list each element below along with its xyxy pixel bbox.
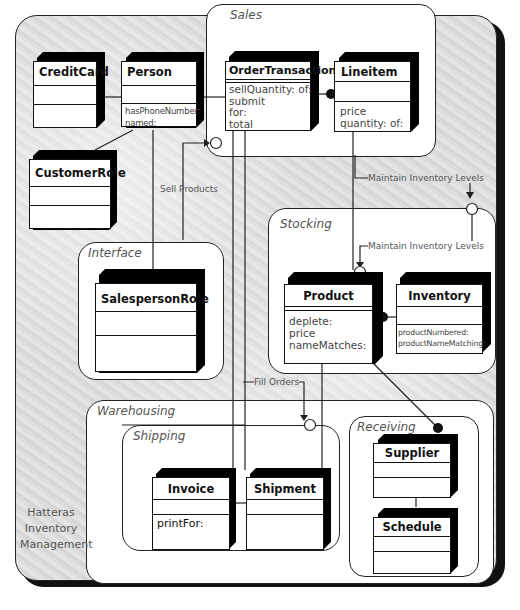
attributes-section [397,307,482,325]
class-customerrole[interactable]: CustomerRole [29,159,111,229]
attributes-section [374,537,450,552]
collab-maintain-inventory-1: Maintain Inventory Levels [368,173,484,183]
package-receiving-label: Receiving [357,420,416,434]
class-name: Product [285,285,372,307]
class-supplier[interactable]: Supplier [373,443,451,498]
class-name: CustomerRole [30,160,110,187]
operations-section [247,515,323,545]
class-salespersonrole[interactable]: SalespersonRole [95,283,197,372]
class-name: Lineitem [335,62,410,82]
class-inventory[interactable]: Inventory productNumbered: productNameMa… [396,284,483,354]
class-ordertransaction[interactable]: OrderTransaction sellQuantity: of: submi… [225,61,311,131]
class-name: Person [122,62,196,86]
class-lineitem[interactable]: Lineitem price quantity: of: [334,61,411,132]
attributes-section [335,82,410,102]
operations-section [34,105,96,127]
attributes-section [122,86,196,104]
class-name: Shipment [247,478,323,500]
diagram-title: Hatteras Inventory Management [20,505,82,553]
operation: sellQuantity: of: [229,84,307,96]
package-warehousing-label: Warehousing [97,404,175,418]
package-stocking-label: Stocking [280,217,332,231]
attributes-section [30,187,110,206]
operations-section: hasPhoneNumber: named: [122,104,196,130]
title-line: Management [20,537,82,553]
class-invoice[interactable]: Invoice printFor: [152,477,230,550]
operations-section [374,478,450,496]
package-shipping-label: Shipping [133,429,185,443]
class-schedule[interactable]: Schedule [373,517,451,574]
class-shipment[interactable]: Shipment [246,477,324,550]
operation: for: [229,107,307,119]
attributes-section [247,500,323,515]
operations-section: sellQuantity: of: submit for: total [226,83,310,131]
collab-fill-orders: Fill Orders [254,377,299,387]
class-name: Invoice [153,478,229,500]
package-interface-label: Interface [88,246,142,260]
class-name: SalespersonRole [96,284,196,312]
collab-sell-products: Sell Products [160,184,218,194]
class-name: Inventory [397,285,482,307]
class-name: CreditCard [34,62,96,86]
operation: productNumbered: [398,327,481,338]
class-name: Schedule [374,518,450,537]
collab-maintain-inventory-2: Maintain Inventory Levels [368,241,484,251]
operation: quantity: of: [340,117,405,129]
operations-section [30,206,110,228]
class-product[interactable]: Product deplete: price nameMatches: [284,284,373,364]
attributes-section [96,312,196,336]
attributes-section [34,86,96,105]
operation: price [340,105,405,117]
class-name: Supplier [374,444,450,463]
operations-section [374,552,450,572]
class-person[interactable]: Person hasPhoneNumber: named: [121,61,197,127]
package-sales-label: Sales [230,8,262,22]
operations-section: productNumbered: productNameMatching: [397,325,482,351]
operations-section: price quantity: of: [335,102,410,132]
operations-section [96,336,196,366]
operation: printFor: [157,518,225,530]
class-name: OrderTransaction [226,62,310,80]
operation: hasPhoneNumber: [125,105,193,117]
title-line: Hatteras [20,505,82,521]
operation: total [229,119,307,131]
operations-section: deplete: price nameMatches: [285,311,372,355]
attributes-section [374,463,450,478]
attributes-section [153,500,229,515]
class-creditcard[interactable]: CreditCard [33,61,97,128]
operation: price [289,327,368,339]
title-line: Inventory [20,521,82,537]
operation: nameMatches: [289,339,368,351]
operations-section: printFor: [153,515,229,533]
operation: deplete: [289,315,368,327]
operation: named: [125,117,193,129]
operation: productNameMatching: [398,338,481,349]
